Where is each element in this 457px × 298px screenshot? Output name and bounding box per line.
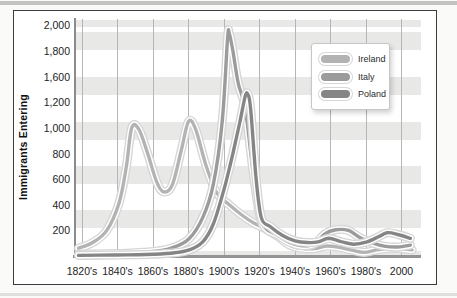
legend-label-poland: Poland xyxy=(358,89,386,99)
legend-swatch-poland xyxy=(321,90,350,98)
legend-item-ireland: Ireland xyxy=(321,54,389,64)
legend: Ireland Italy Poland xyxy=(311,43,390,110)
legend-item-poland: Poland xyxy=(321,89,389,99)
legend-swatch-ireland xyxy=(321,55,350,63)
x-tick-label: 2000 xyxy=(379,265,425,277)
legend-label-ireland: Ireland xyxy=(358,54,386,64)
legend-label-italy: Italy xyxy=(358,72,375,82)
page: Immigrants Entering 2004006008001,0001,2… xyxy=(0,0,457,298)
legend-item-italy: Italy xyxy=(321,72,389,82)
legend-swatch-italy xyxy=(321,73,350,81)
